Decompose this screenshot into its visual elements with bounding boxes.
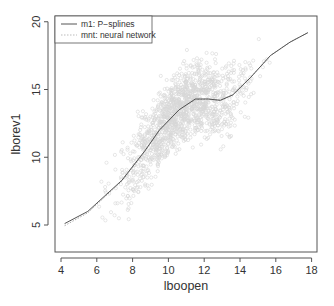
y-tick-label: 15	[30, 83, 42, 95]
x-axis: 4681012141618	[58, 258, 318, 276]
x-tick-label: 6	[94, 264, 100, 276]
x-tick-label: 12	[198, 264, 210, 276]
legend: m1: P−splines mnt: neural network	[55, 16, 156, 43]
x-tick-label: 14	[234, 264, 246, 276]
scatter-chart: 4681012141618 5101520 lboopen lborev1 m1…	[0, 0, 334, 306]
y-axis: 5101520	[30, 16, 48, 228]
x-tick-label: 18	[305, 264, 317, 276]
legend-label-p-splines: m1: P−splines	[81, 19, 135, 29]
p-splines-line	[65, 33, 308, 224]
scatter-points	[98, 38, 272, 222]
y-tick-label: 20	[30, 16, 42, 28]
x-tick-label: 8	[130, 264, 136, 276]
y-axis-title: lborev1	[9, 113, 23, 154]
x-tick-label: 10	[162, 264, 174, 276]
legend-label-neural-network: mnt: neural network	[81, 30, 156, 40]
y-tick-label: 5	[30, 222, 42, 228]
x-tick-label: 16	[270, 264, 282, 276]
neural-network-line	[65, 33, 308, 226]
y-tick-label: 10	[30, 151, 42, 163]
x-axis-title: lboopen	[164, 279, 209, 293]
x-tick-label: 4	[58, 264, 64, 276]
